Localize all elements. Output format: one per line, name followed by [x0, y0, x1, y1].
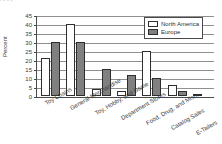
y-axis-title: Percent	[2, 36, 8, 57]
y-axis-tick	[34, 79, 37, 80]
bar	[193, 94, 202, 96]
chart-legend: North America Europe	[144, 17, 203, 39]
bar	[92, 89, 101, 96]
legend-label-europe: Europe	[161, 29, 180, 35]
y-axis-tick	[34, 34, 37, 35]
legend-item-europe: Europe	[148, 28, 199, 36]
y-axis-tick	[34, 88, 37, 89]
bar	[66, 24, 75, 96]
bar	[127, 75, 136, 96]
legend-swatch-europe	[148, 29, 158, 35]
bar	[152, 78, 161, 96]
y-axis-tick	[34, 70, 37, 71]
y-axis-tick-label: 15	[25, 67, 32, 73]
y-axis-tick-label: 20	[25, 58, 32, 64]
legend-swatch-north-america	[148, 21, 158, 27]
y-axis-tick-label: 40	[25, 22, 32, 28]
bar	[168, 85, 177, 96]
clipped-header-text: i o o y	[0, 0, 222, 7]
bar-chart: i o o y Percent 051015202530354045 Toy C…	[0, 0, 222, 144]
bar-group	[114, 16, 139, 96]
y-axis-tick	[34, 43, 37, 44]
clipped-header-label: i o o y	[0, 0, 13, 2]
y-axis-tick-label: 30	[25, 40, 32, 46]
bar	[41, 58, 50, 96]
bar-group	[38, 16, 63, 96]
bar	[142, 51, 151, 96]
y-axis-tick-label: 45	[25, 13, 32, 19]
y-axis-tick	[34, 52, 37, 53]
bar	[51, 42, 60, 96]
bar	[102, 69, 111, 96]
bar-group	[89, 16, 114, 96]
y-axis-tick	[34, 25, 37, 26]
y-axis-tick-label: 25	[25, 49, 32, 55]
bar	[117, 91, 126, 96]
y-axis-tick	[34, 97, 37, 98]
y-axis-tick-label: 0	[29, 94, 32, 100]
x-axis-label: Catalog Sales	[170, 107, 205, 131]
y-axis-tick	[34, 16, 37, 17]
y-axis-tick-label: 10	[25, 76, 32, 82]
x-axis-label: E-Tailers	[195, 119, 218, 136]
y-axis-tick-label: 35	[25, 31, 32, 37]
bar	[76, 42, 85, 96]
bar	[178, 91, 187, 96]
legend-label-north-america: North America	[161, 21, 199, 27]
legend-item-north-america: North America	[148, 20, 199, 28]
y-axis-tick	[34, 61, 37, 62]
bar-group	[63, 16, 88, 96]
y-axis-tick-label: 5	[29, 85, 32, 91]
